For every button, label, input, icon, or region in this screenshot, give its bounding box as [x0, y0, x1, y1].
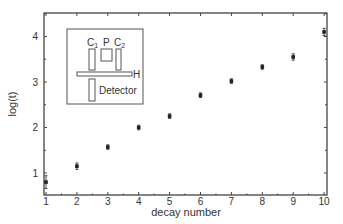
- y-axis-label: log(t): [6, 91, 18, 116]
- data-point: [199, 93, 203, 98]
- data-point: [44, 176, 48, 189]
- detector-label: Detector: [99, 85, 137, 96]
- data-point: [230, 79, 234, 84]
- data-point: [75, 163, 79, 169]
- x-tick-label: 7: [229, 196, 235, 207]
- x-tick-label: 3: [105, 196, 111, 207]
- data-point: [106, 145, 110, 150]
- x-tick-label: 2: [74, 196, 80, 207]
- x-tick-label: 9: [290, 196, 296, 207]
- data-point: [168, 114, 172, 119]
- x-axis-label: decay number: [151, 206, 221, 218]
- x-tick-label: 4: [136, 196, 142, 207]
- inset-diagram: C1 P C2 H Detector: [67, 29, 143, 104]
- y-tick-label: 2: [32, 122, 38, 133]
- x-tick-label: 10: [319, 196, 331, 207]
- data-point: [261, 65, 265, 70]
- h-label: H: [133, 69, 140, 80]
- y-tick-label: 1: [32, 168, 38, 179]
- y-tick-label: 3: [32, 77, 38, 88]
- scatter-chart: 12345678910 1234 decay number log(t) C1 …: [0, 0, 343, 224]
- y-tick-label: 4: [32, 31, 38, 42]
- x-tick-label: 1: [43, 196, 49, 207]
- x-tick-label: 8: [260, 196, 266, 207]
- data-point: [291, 54, 295, 60]
- data-point: [137, 125, 141, 130]
- p-label: P: [103, 37, 110, 48]
- data-point: [322, 28, 326, 35]
